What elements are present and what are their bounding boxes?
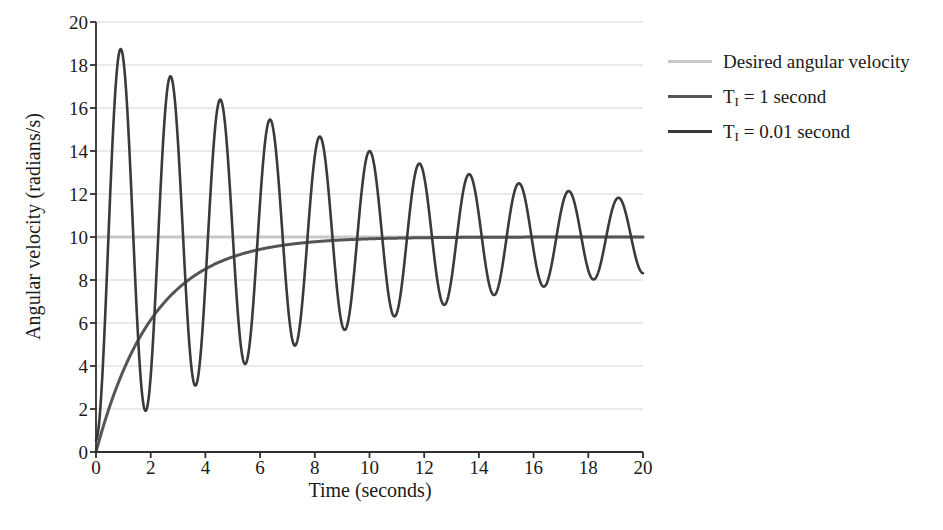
- x-tick-label-0: 0: [91, 458, 101, 477]
- x-tick-label-2: 2: [146, 458, 156, 477]
- y-tick-label-16: 16: [40, 99, 88, 118]
- y-tick-label-2: 2: [40, 400, 88, 419]
- legend-label-2: TI = 0.01 second: [723, 122, 850, 141]
- y-tick-label-14: 14: [40, 142, 88, 161]
- legend-swatch-2: [668, 130, 712, 133]
- legend-swatch-0: [668, 60, 712, 63]
- y-axis-tick-labels: 02468101214161820: [40, 0, 88, 452]
- legend-item-0[interactable]: Desired angular velocity: [668, 48, 936, 74]
- x-tick-label-16: 16: [524, 458, 543, 477]
- series-line-1: [96, 237, 643, 452]
- legend-item-1[interactable]: TI = 1 second: [668, 83, 936, 109]
- figure-container: Angular velocity (radians/s) 02468101214…: [0, 0, 943, 530]
- x-tick-label-4: 4: [201, 458, 211, 477]
- y-tick-label-6: 6: [40, 314, 88, 333]
- x-tick-label-14: 14: [469, 458, 488, 477]
- y-tick-label-12: 12: [40, 185, 88, 204]
- legend-label-0: Desired angular velocity: [723, 52, 910, 71]
- x-tick-label-18: 18: [579, 458, 598, 477]
- x-tick-label-10: 10: [360, 458, 379, 477]
- y-tick-label-10: 10: [40, 228, 88, 247]
- legend-label-1: TI = 1 second: [723, 87, 826, 106]
- chart-legend: Desired angular velocityTI = 1 secondTI …: [668, 48, 936, 153]
- x-tick-label-20: 20: [634, 458, 653, 477]
- legend-swatch-1: [668, 95, 712, 98]
- y-tick-label-8: 8: [40, 271, 88, 290]
- legend-item-2[interactable]: TI = 0.01 second: [668, 118, 936, 144]
- y-tick-label-4: 4: [40, 357, 88, 376]
- y-tick-label-20: 20: [40, 13, 88, 32]
- y-tick-label-18: 18: [40, 56, 88, 75]
- x-tick-label-12: 12: [415, 458, 434, 477]
- x-axis-title: Time (seconds): [96, 479, 644, 502]
- x-tick-label-6: 6: [255, 458, 265, 477]
- x-tick-label-8: 8: [310, 458, 320, 477]
